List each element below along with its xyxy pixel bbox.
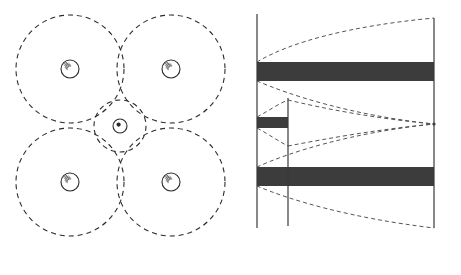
interstitial-sphere-center xyxy=(94,100,146,152)
large-sphere-bottom-right xyxy=(117,128,225,236)
trajectory-curve-lower-inner xyxy=(257,124,434,167)
sphere-shell-dashed xyxy=(117,15,225,123)
trajectory-curve-mid-upper-right xyxy=(288,100,434,124)
sphere-shell-dashed xyxy=(117,128,225,236)
space-time-panel: t = 0 t1 t0 = L0 V xyxy=(230,0,461,275)
trajectory-curve-mid-lower-right xyxy=(288,124,434,146)
large-sphere-bottom-left xyxy=(16,128,124,236)
trajectory-curve-upper-outer xyxy=(257,18,434,62)
sphere-core xyxy=(61,60,79,78)
large-sphere-top-left xyxy=(16,15,124,123)
trajectory-curve-lower-outer xyxy=(257,186,434,228)
figure-container: t = 0 t1 t0 = L0 V xyxy=(0,0,461,275)
convergence-point xyxy=(432,122,435,125)
sphere-core xyxy=(162,60,180,78)
sphere-core xyxy=(61,173,79,191)
sphere-core-dot xyxy=(117,123,121,127)
sphere-packing-panel xyxy=(0,0,230,275)
middle-band xyxy=(257,117,288,128)
space-time-svg xyxy=(230,0,461,275)
sphere-shell-dashed xyxy=(16,15,124,123)
lower-band xyxy=(257,167,434,186)
sphere-shell-dashed xyxy=(16,128,124,236)
trajectory-curve-mid-upper-left xyxy=(257,100,288,117)
sphere-core xyxy=(162,173,180,191)
sphere-packing-svg xyxy=(0,0,230,275)
large-sphere-top-right xyxy=(117,15,225,123)
upper-band xyxy=(257,62,434,81)
trajectory-curve-mid-lower-left xyxy=(257,128,288,146)
